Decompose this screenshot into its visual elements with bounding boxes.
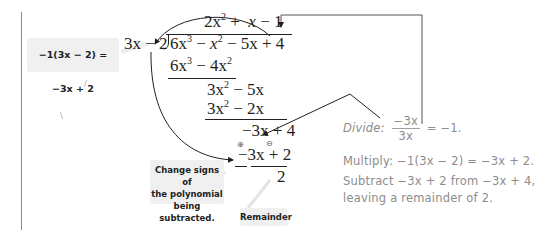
step-1-subtrahend: 6x3 − 4x2 [170,56,232,76]
divisor: 3x − 2 [124,34,168,54]
divide-numerator: −3x [392,114,420,129]
divide-result: = −1. [427,121,462,135]
change-signs-line-3: being subtracted. [150,200,224,224]
divide-denominator: 3x [392,129,420,143]
step-2-remainder: 3x2 − 5x [207,80,264,100]
divide-label: Divide: [343,121,385,135]
change-signs-line-1: Change signs of [150,164,224,188]
step-3-subtrahend: −3x + 2 [238,145,291,165]
subtract-step-line-1: Subtract −3x + 2 from −3x + 4, [343,174,535,188]
step-2-subtrahend: 3x2 − 2x [207,99,264,119]
quotient: 2x2 + x − 1 [204,12,282,32]
step-2-rule [205,119,287,120]
change-signs-callout: Change signs of the polynomial being sub… [150,160,224,204]
step-3-remainder: −3x + 4 [242,121,295,141]
dividend: 6x3 − x2 − 5x + 4 [170,34,284,54]
multiply-step: Multiply: −1(3x − 2) = −3x + 2. [343,154,534,168]
remainder-callout: Remainder [240,208,288,226]
change-signs-line-2: the polynomial [150,188,224,200]
divide-fraction: −3x 3x [392,114,420,143]
remainder-value: 2 [277,167,286,187]
subtract-step-line-2: leaving a remainder of 2. [343,191,493,205]
step-3-rule-a [235,166,247,167]
divide-step: Divide: −3x 3x = −1. [343,114,462,143]
